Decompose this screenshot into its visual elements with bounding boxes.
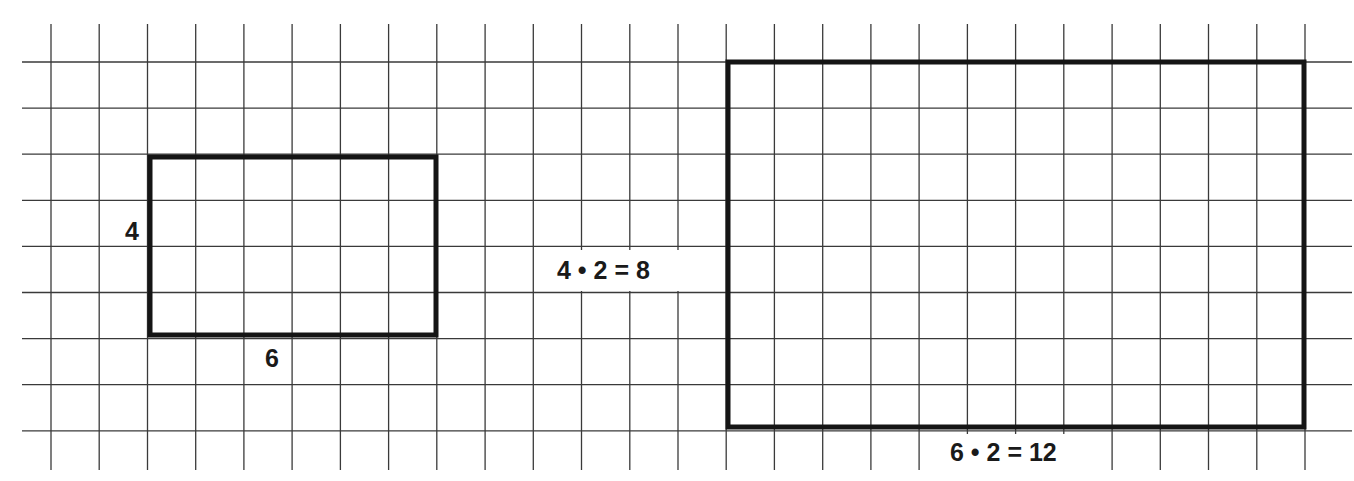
large-rectangle-height-label: 4 • 2 = 8 (545, 250, 721, 291)
height-scale-equation: 4 • 2 = 8 (557, 258, 650, 283)
small-rectangle-height-label: 4 (125, 219, 139, 244)
width-scale-equation: 6 • 2 = 12 (950, 440, 1057, 465)
large-rectangle-width-label: 6 • 2 = 12 (944, 434, 1096, 471)
grid-paper-figure: 4 6 4 • 2 = 8 6 • 2 = 12 (0, 0, 1354, 481)
small-rectangle-width-label: 6 (265, 346, 279, 371)
grid-background (0, 0, 1354, 481)
horizontal-grid-lines (22, 62, 1352, 431)
